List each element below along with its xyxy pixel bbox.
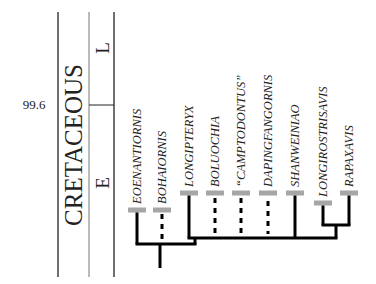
tree-group (136, 196, 351, 269)
cladogram-figure: 99.6 CRETACEOUS L E EOENANTIORNISBOHAIOR… (0, 0, 376, 284)
epoch-late-label: L (92, 42, 113, 54)
range-bar (286, 191, 304, 196)
taxa-group: EOENANTIORNISBOHAIORNISLONGIPTERYXBOLUOC… (128, 74, 358, 213)
range-bar (206, 191, 224, 196)
range-bar (128, 208, 146, 213)
period-label: CRETACEOUS (60, 64, 87, 226)
range-bar (314, 201, 332, 206)
age-label: 99.6 (23, 97, 46, 112)
range-bar (259, 191, 277, 196)
taxon-label: LONGIPTERYX (182, 104, 196, 188)
taxon-label: EOENANTIORNIS (130, 108, 144, 205)
taxon-label: BOHAIORNIS (155, 130, 169, 204)
taxon-label: SHANWEINIAO (288, 104, 302, 187)
taxon-label: LONGIROSTRISAVIS (316, 86, 330, 198)
taxon-label: RAPAXAVIS (342, 125, 356, 188)
taxon-label: BOLUOCHIA (208, 116, 222, 187)
range-bar (180, 191, 198, 196)
range-bar (340, 191, 358, 196)
range-bar (232, 191, 250, 196)
range-bar (153, 208, 171, 213)
epoch-early-label: E (92, 177, 113, 189)
taxon-label: DAPINGFANGORNIS (261, 74, 275, 188)
taxon-label: “CAMPTODONTUS” (234, 75, 248, 187)
